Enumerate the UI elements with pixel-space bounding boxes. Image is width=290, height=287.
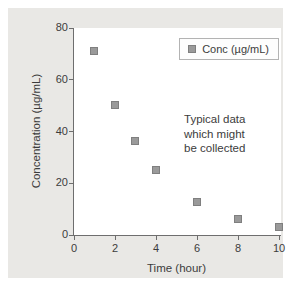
chart-panel: Conc (µg/mL) Typical data which might be…	[8, 8, 283, 278]
legend-marker-icon	[188, 45, 196, 53]
legend: Conc (µg/mL)	[179, 38, 279, 60]
x-axis-title: Time (hour)	[73, 262, 280, 274]
y-axis-tick	[69, 28, 73, 29]
data-point	[111, 101, 119, 109]
x-axis-tick-label: 4	[144, 242, 168, 255]
y-axis-tick-label: 0	[40, 228, 68, 241]
x-axis-tick-label: 6	[185, 242, 209, 255]
y-axis-tick	[69, 235, 73, 236]
data-point	[275, 223, 283, 231]
y-axis-tick	[69, 131, 73, 132]
x-axis-tick-label: 2	[103, 242, 127, 255]
x-axis-tick-label: 8	[226, 242, 250, 255]
x-axis-tick	[238, 236, 239, 240]
data-point	[152, 166, 160, 174]
y-axis-tick-label: 60	[40, 73, 68, 86]
figure: Conc (µg/mL) Typical data which might be…	[0, 0, 290, 287]
legend-label: Conc (µg/mL)	[202, 43, 269, 55]
y-axis-tick	[69, 79, 73, 80]
x-axis-tick-label: 0	[62, 242, 86, 255]
data-point	[193, 198, 201, 206]
data-point	[234, 215, 242, 223]
y-axis-tick-label: 20	[40, 176, 68, 189]
data-point	[90, 47, 98, 55]
data-point	[131, 137, 139, 145]
chart-annotation: Typical data which might be collected	[184, 112, 245, 156]
y-axis-tick-label: 80	[40, 21, 68, 34]
x-axis-tick	[279, 236, 280, 240]
x-axis-tick	[197, 236, 198, 240]
y-axis-tick	[69, 183, 73, 184]
y-axis-tick-label: 40	[40, 125, 68, 138]
y-axis-title: Concentration (µg/mL)	[30, 74, 42, 189]
x-axis-tick	[74, 236, 75, 240]
x-axis-tick	[156, 236, 157, 240]
x-axis-tick-label: 10	[267, 242, 290, 255]
x-axis-tick	[115, 236, 116, 240]
plot-area: Conc (µg/mL) Typical data which might be…	[73, 28, 281, 236]
